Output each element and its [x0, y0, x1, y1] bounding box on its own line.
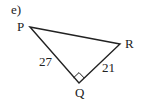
vertex-label-r: R [125, 36, 134, 51]
problem-label: e) [11, 2, 21, 17]
triangle-diagram: e) P R Q 27 21 [0, 0, 142, 99]
side-length-qr: 21 [102, 60, 115, 75]
side-length-pq: 27 [39, 54, 53, 69]
vertex-label-q: Q [75, 85, 85, 99]
vertex-label-p: P [17, 19, 24, 34]
right-angle-marker [74, 73, 85, 78]
